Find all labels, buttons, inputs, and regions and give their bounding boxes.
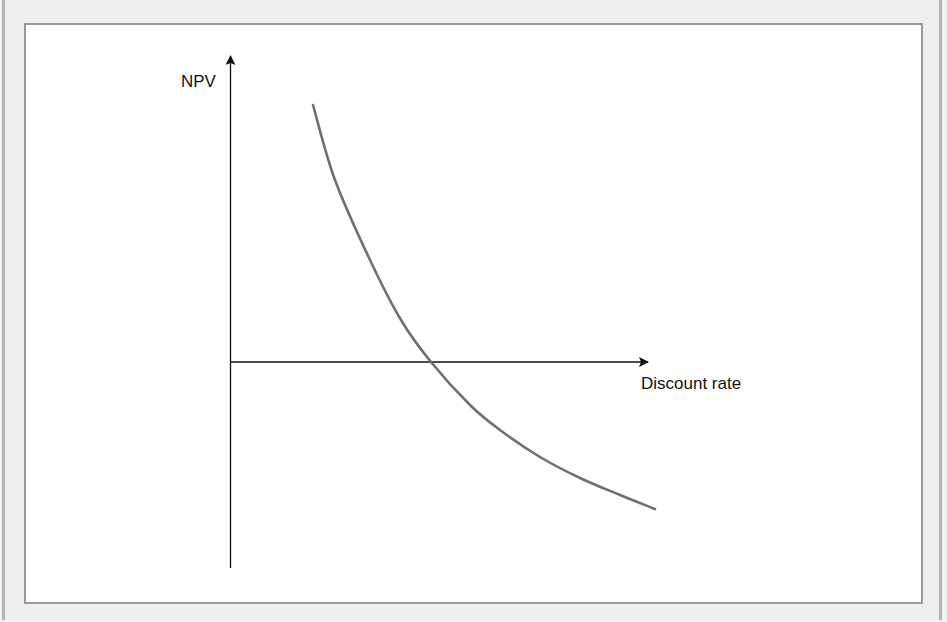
npv-chart: NPV Discount rate: [0, 0, 947, 622]
x-axis-label: Discount rate: [641, 374, 741, 393]
y-axis-label: NPV: [181, 72, 217, 91]
npv-curve: [313, 105, 655, 509]
